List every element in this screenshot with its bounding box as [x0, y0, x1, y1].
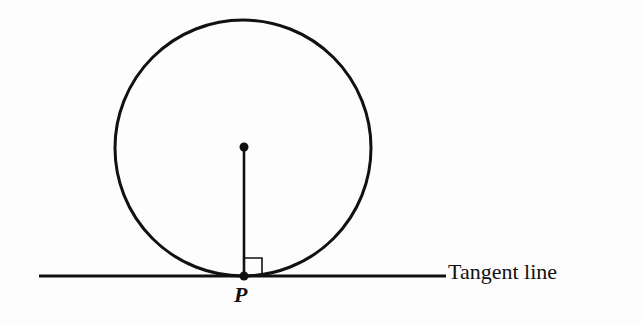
- tangent-line-label: Tangent line: [448, 261, 557, 283]
- center-point: [240, 143, 249, 152]
- point-p: [240, 272, 249, 281]
- point-p-label: P: [234, 284, 247, 306]
- diagram-canvas: ​ P Tangent line: [0, 0, 642, 326]
